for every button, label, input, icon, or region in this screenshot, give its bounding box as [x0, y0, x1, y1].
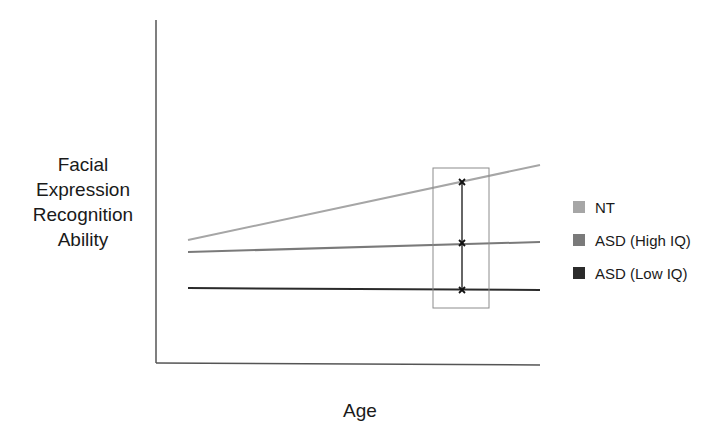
series-lines — [188, 165, 540, 290]
legend: NT ASD (High IQ) ASD (Low IQ) — [573, 196, 691, 295]
legend-label: NT — [595, 199, 615, 216]
series-line — [188, 242, 540, 252]
x-axis-label: Age — [320, 400, 400, 422]
legend-label: ASD (Low IQ) — [595, 265, 688, 282]
legend-label: ASD (High IQ) — [595, 232, 691, 249]
legend-item-asd-high-iq: ASD (High IQ) — [573, 229, 691, 251]
y-axis-label-line: Recognition — [8, 202, 158, 227]
series-line — [188, 288, 540, 290]
series-line — [188, 165, 540, 240]
y-axis-label-line: Expression — [8, 177, 158, 202]
legend-swatch-asd-low-iq — [573, 267, 585, 279]
y-axis-label-line: Facial — [8, 152, 158, 177]
x-axis — [156, 363, 540, 365]
y-axis-label: Facial Expression Recognition Ability — [8, 152, 158, 252]
legend-item-nt: NT — [573, 196, 691, 218]
legend-swatch-asd-high-iq — [573, 234, 585, 246]
legend-swatch-nt — [573, 201, 585, 213]
legend-item-asd-low-iq: ASD (Low IQ) — [573, 262, 691, 284]
y-axis-label-line: Ability — [8, 227, 158, 252]
highlight-box — [433, 168, 489, 308]
